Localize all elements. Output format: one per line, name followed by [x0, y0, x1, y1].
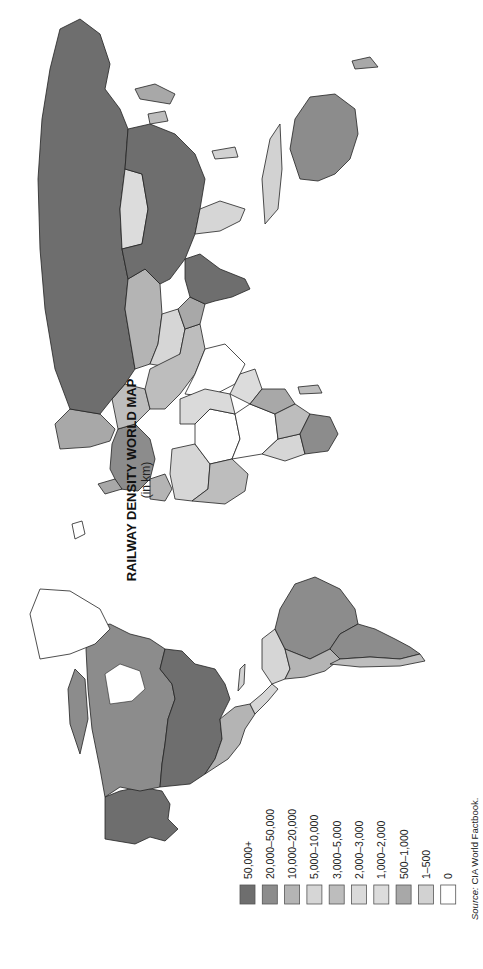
- legend-label: 3,000–5,000: [331, 820, 343, 879]
- region-caribbean: [238, 664, 245, 691]
- legend-swatch: [307, 885, 322, 904]
- legend-item: 50,000+: [240, 841, 255, 904]
- region-iberia: [150, 474, 172, 501]
- region-korea: [148, 111, 168, 124]
- legend-item: 1,000–2,000: [374, 820, 389, 904]
- region-iceland: [72, 521, 85, 539]
- region-philippines: [212, 147, 238, 159]
- legend-label: 50,000+: [242, 841, 254, 879]
- legend-label: 10,000–20,000: [286, 809, 298, 879]
- region-india: [185, 254, 250, 304]
- region-australia: [290, 94, 358, 181]
- legend-swatch: [418, 885, 433, 904]
- legend-swatch: [441, 885, 456, 904]
- legend-item: 0: [441, 873, 456, 904]
- legend: 50,000+20,000–50,00010,000–20,0005,000–1…: [240, 809, 456, 904]
- region-arctic-islands: [68, 669, 88, 754]
- region-usa: [160, 649, 230, 787]
- legend-item: 2,000–3,000: [352, 820, 367, 904]
- region-new-zealand: [352, 57, 378, 69]
- legend-label: 0: [442, 873, 454, 879]
- source-note-group: Source: CIA World Factbook.: [469, 798, 480, 920]
- railway-density-map: RAILWAY DENSITY WORLD MAP (in km) 50,000…: [0, 0, 483, 969]
- region-japan: [135, 84, 175, 104]
- legend-swatch: [240, 885, 255, 904]
- legend-label: 500–1,000: [398, 829, 410, 879]
- legend-swatch: [262, 885, 277, 904]
- legend-item: 1–500: [418, 850, 433, 904]
- map-subtitle: (in km): [139, 462, 153, 499]
- region-scandinavia: [55, 409, 115, 449]
- legend-label: 1–500: [420, 850, 432, 879]
- region-alaska: [105, 787, 178, 844]
- legend-label: 2,000–3,000: [353, 820, 365, 879]
- world-map: [30, 19, 425, 844]
- legend-item: 500–1,000: [396, 829, 411, 904]
- region-madagascar: [298, 385, 322, 394]
- legend-label: 1,000–2,000: [375, 820, 387, 879]
- region-indonesia: [262, 124, 282, 224]
- legend-swatch: [352, 885, 367, 904]
- legend-swatch: [374, 885, 389, 904]
- region-central-america: [250, 684, 278, 714]
- legend-item: 20,000–50,000: [262, 809, 277, 904]
- legend-swatch: [285, 885, 300, 904]
- legend-label: 20,000–50,000: [264, 809, 276, 879]
- source-note: Source: CIA World Factbook.: [469, 798, 480, 920]
- legend-item: 3,000–5,000: [329, 820, 344, 904]
- map-title: RAILWAY DENSITY WORLD MAP: [124, 378, 139, 581]
- legend-swatch: [329, 885, 344, 904]
- legend-label: 5,000–10,000: [308, 815, 320, 879]
- legend-item: 10,000–20,000: [285, 809, 300, 904]
- legend-item: 5,000–10,000: [307, 815, 322, 904]
- legend-swatch: [396, 885, 411, 904]
- region-indochina: [195, 201, 245, 234]
